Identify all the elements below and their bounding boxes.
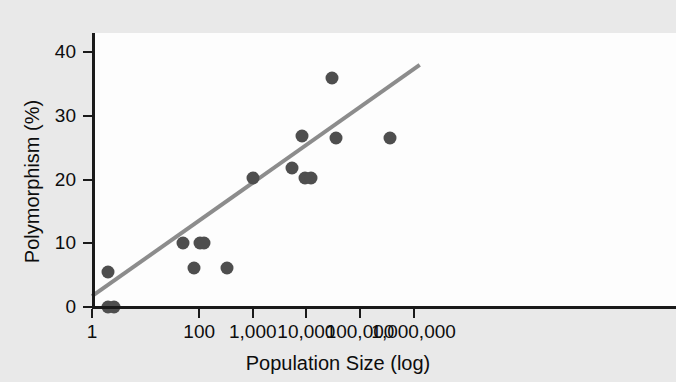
y-tick-mark	[83, 242, 92, 244]
data-point	[188, 261, 201, 274]
x-tick-label: 100	[183, 322, 215, 341]
data-point	[383, 132, 396, 145]
x-tick-mark	[198, 309, 200, 318]
x-tick-mark	[413, 309, 415, 318]
y-tick-mark	[83, 115, 92, 117]
scatter-plot-figure: 010203040 11001,00010,000100,0001,000,00…	[0, 0, 676, 382]
plot-area	[92, 33, 676, 307]
x-tick-mark	[252, 309, 254, 318]
data-point	[102, 265, 115, 278]
x-axis-title: Population Size (log)	[0, 352, 676, 375]
y-axis-line	[92, 33, 95, 309]
x-axis-line	[92, 306, 676, 309]
data-point	[325, 71, 338, 84]
data-point	[295, 130, 308, 143]
data-point	[246, 171, 259, 184]
x-tick-mark	[305, 309, 307, 318]
x-tick-mark	[359, 309, 361, 318]
data-point	[330, 132, 343, 145]
x-tick-label: 1,000,000	[371, 322, 456, 341]
data-point	[177, 237, 190, 250]
data-point	[198, 237, 211, 250]
data-point	[286, 162, 299, 175]
y-tick-mark	[83, 179, 92, 181]
x-tick-label: 1	[87, 322, 98, 341]
data-point	[304, 171, 317, 184]
x-tick-label: 1,000	[229, 322, 277, 341]
y-tick-mark	[83, 306, 92, 308]
x-tick-mark	[91, 309, 93, 318]
data-point	[220, 261, 233, 274]
y-axis-title: Polymorphism (%)	[21, 32, 44, 332]
y-tick-mark	[83, 51, 92, 53]
